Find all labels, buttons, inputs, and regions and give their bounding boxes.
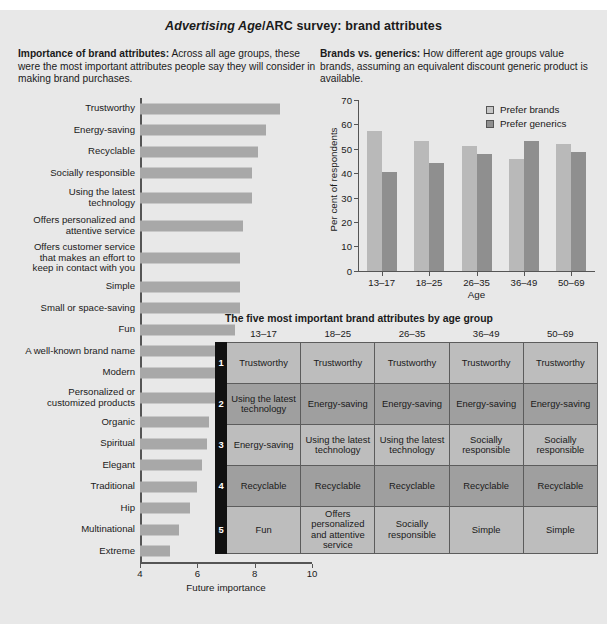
table-cell: Socially responsible <box>523 425 597 466</box>
table-row: 4RecyclableRecyclableRecyclableRecyclabl… <box>216 466 598 507</box>
table-cell: Offers personalized and attentive servic… <box>301 507 375 554</box>
right-chart-y-tick-label: 40 <box>341 168 352 179</box>
importance-bar-track <box>140 141 318 163</box>
importance-bar-label: Simple <box>18 281 140 292</box>
table-row: 5FunOffers personalized and attentive se… <box>216 507 598 554</box>
importance-bar <box>140 253 240 264</box>
importance-bar-label: A well-known brand name <box>18 346 140 357</box>
table-cell: Trustworthy <box>375 343 449 384</box>
table-cell: Recyclable <box>449 466 523 507</box>
grouped-bar <box>429 163 444 270</box>
left-chart-x-tick <box>197 564 198 568</box>
figure-title: Advertising Age/ARC survey: brand attrib… <box>0 10 607 33</box>
importance-bar-label: Elegant <box>18 460 140 471</box>
table-cell: Using the latest technology <box>301 425 375 466</box>
right-chart-y-tick-label: 0 <box>347 265 352 276</box>
importance-bar <box>140 460 202 471</box>
right-chart-y-tick-label: 10 <box>341 241 352 252</box>
importance-bar-label: Offers customer service that makes an ef… <box>18 242 140 274</box>
importance-bar-label: Offers personalized and attentive servic… <box>18 215 140 236</box>
left-chart-xlabel: Future importance <box>140 582 312 593</box>
table-cell: Energy-saving <box>301 384 375 425</box>
grouped-bar <box>414 141 429 270</box>
table-row: 1TrustworthyTrustworthyTrustworthyTrustw… <box>216 343 598 384</box>
right-chart-y-tick <box>354 222 358 223</box>
left-panel: Importance of brand attributes: Across a… <box>18 48 318 86</box>
importance-bar <box>140 281 240 292</box>
importance-bar-label: Socially responsible <box>18 168 140 179</box>
right-blurb: Brands vs. generics: How different age g… <box>320 48 595 86</box>
importance-bar-row: Recyclable <box>18 141 318 163</box>
figure-title-italic: Advertising Age <box>165 19 262 33</box>
table-row: 2Using the latest technologyEnergy-savin… <box>216 384 598 425</box>
left-chart-x-tick-label: 10 <box>307 568 318 579</box>
table-cell: Trustworthy <box>523 343 597 384</box>
left-chart-x-axis <box>140 562 312 564</box>
table-cell: Simple <box>449 507 523 554</box>
right-chart-y-tick <box>354 149 358 150</box>
importance-bar-label: Using the latest technology <box>18 187 140 208</box>
grouped-bar <box>462 146 477 270</box>
table-cell: Recyclable <box>375 466 449 507</box>
table-cell: Recyclable <box>227 466 301 507</box>
figure-panel: Advertising Age/ARC survey: brand attrib… <box>0 10 607 624</box>
importance-bar-label: Multinational <box>18 524 140 535</box>
grouped-bar <box>477 154 492 271</box>
table-cell: Fun <box>227 507 301 554</box>
grouped-bar <box>367 131 382 271</box>
importance-bar-track <box>140 120 318 142</box>
table-rank-cell: 3 <box>216 425 227 466</box>
grouped-bar <box>571 152 586 270</box>
right-chart-plot-area: Prefer brandsPrefer generics 01020304050… <box>358 100 595 272</box>
right-chart-y-tick <box>354 198 358 199</box>
grouped-bar <box>556 144 571 271</box>
importance-bar-track <box>140 184 318 212</box>
left-blurb: Importance of brand attributes: Across a… <box>18 48 318 86</box>
right-chart-x-tick <box>429 272 430 276</box>
table-column-header: 50–69 <box>523 327 597 343</box>
table-column-header: 26–35 <box>375 327 449 343</box>
right-chart-x-tick <box>382 272 383 276</box>
importance-bar-label: Recyclable <box>18 146 140 157</box>
importance-bar-label: Energy-saving <box>18 125 140 136</box>
right-chart-x-tick <box>477 272 478 276</box>
importance-bar <box>140 524 179 535</box>
importance-bar-label: Traditional <box>18 481 140 492</box>
left-chart-x-tick-label: 8 <box>252 568 257 579</box>
table-column-header: 13–17 <box>227 327 301 343</box>
table-column-header: 18–25 <box>301 327 375 343</box>
table-rank-cell: 2 <box>216 384 227 425</box>
importance-bar-row: Socially responsible <box>18 163 318 185</box>
right-chart-x-tick-label: 26–35 <box>463 277 490 288</box>
importance-bar <box>140 367 220 378</box>
importance-bar-label: Extreme <box>18 546 140 557</box>
importance-bar-label: Small or space-saving <box>18 303 140 314</box>
importance-bar <box>140 392 217 403</box>
table-rank-header <box>216 327 227 343</box>
table-rank-cell: 1 <box>216 343 227 384</box>
importance-bar <box>140 503 190 514</box>
table-cell: Recyclable <box>301 466 375 507</box>
right-chart-y-tick <box>354 271 358 272</box>
importance-bar-row: Using the latest technology <box>18 184 318 212</box>
right-chart-y-tick <box>354 173 358 174</box>
importance-bar-label: Organic <box>18 417 140 428</box>
brands-vs-generics-chart: Per cent of respondents Prefer brandsPre… <box>320 96 595 296</box>
right-chart-y-tick <box>354 124 358 125</box>
legend-swatch <box>486 120 494 128</box>
table-rank-cell: 5 <box>216 507 227 554</box>
legend-item: Prefer generics <box>486 118 566 129</box>
importance-bar <box>140 125 266 136</box>
right-chart-x-tick <box>571 272 572 276</box>
table-cell: Energy-saving <box>375 384 449 425</box>
right-chart-legend: Prefer brandsPrefer generics <box>486 104 566 132</box>
importance-bar <box>140 417 209 428</box>
table-body: 1TrustworthyTrustworthyTrustworthyTrustw… <box>216 343 598 554</box>
importance-bar <box>140 103 280 114</box>
table-rank-cell: 4 <box>216 466 227 507</box>
right-chart-y-tick <box>354 100 358 101</box>
right-chart-ylabel: Per cent of respondents <box>328 105 339 255</box>
attributes-table: 13–1718–2526–3536–4950–69 1TrustworthyTr… <box>215 327 598 554</box>
importance-bar <box>140 438 207 449</box>
importance-bar-label: Modern <box>18 367 140 378</box>
